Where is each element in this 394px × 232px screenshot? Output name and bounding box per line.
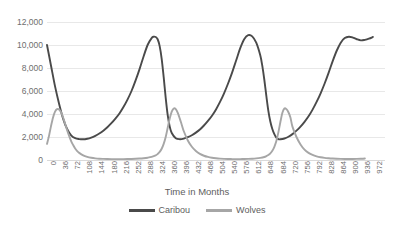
y-tick-label: 2,000 — [22, 133, 43, 142]
legend-item-wolves[interactable]: Wolves — [206, 206, 265, 215]
x-tick-label: 432 — [195, 161, 203, 174]
x-tick-label: 792 — [316, 161, 324, 174]
x-tick-label: 900 — [352, 161, 360, 174]
x-tick-label: 720 — [292, 161, 300, 174]
x-tick-label: 936 — [364, 161, 372, 174]
x-axis-title: Time in Months — [0, 186, 394, 197]
series-layer — [47, 22, 385, 160]
x-tick-label: 864 — [340, 161, 348, 174]
y-tick-label: 10,000 — [17, 41, 43, 50]
x-tick-label: 360 — [171, 161, 179, 174]
x-tick-label: 396 — [183, 161, 191, 174]
x-tick-label: 0 — [50, 161, 58, 165]
x-tick-label: 828 — [328, 161, 336, 174]
x-tick-label: 324 — [159, 161, 167, 174]
y-tick-label: 12,000 — [17, 18, 43, 27]
x-tick-label: 72 — [74, 161, 82, 169]
legend-swatch-wolves — [206, 209, 232, 211]
x-tick-label: 756 — [304, 161, 312, 174]
legend-swatch-caribou — [129, 209, 155, 211]
y-tick-label: 6,000 — [22, 87, 43, 96]
y-axis-labels: 02,0004,0006,0008,00010,00012,000 — [0, 22, 47, 160]
x-tick-label: 36 — [62, 161, 70, 169]
y-tick-label: 4,000 — [22, 110, 43, 119]
x-tick-label: 972 — [376, 161, 384, 174]
line-chart: 02,0004,0006,0008,00010,00012,000 036721… — [0, 0, 394, 232]
series-line-caribou — [47, 35, 373, 139]
legend-label-wolves: Wolves — [236, 206, 265, 215]
plot-area — [47, 22, 385, 160]
chart-legend: Caribou Wolves — [0, 206, 394, 215]
legend-item-caribou[interactable]: Caribou — [129, 206, 191, 215]
legend-label-caribou: Caribou — [159, 206, 191, 215]
x-tick-label: 576 — [243, 161, 251, 174]
x-tick-label: 684 — [280, 161, 288, 174]
x-tick-label: 252 — [135, 161, 143, 174]
x-tick-label: 216 — [123, 161, 131, 174]
x-tick-label: 144 — [98, 161, 106, 174]
x-tick-label: 540 — [231, 161, 239, 174]
series-line-wolves — [47, 108, 365, 159]
y-tick-label: 0 — [38, 156, 43, 165]
x-tick-label: 288 — [147, 161, 155, 174]
x-tick-label: 648 — [267, 161, 275, 174]
x-tick-label: 612 — [255, 161, 263, 174]
x-tick-label: 504 — [219, 161, 227, 174]
y-tick-label: 8,000 — [22, 64, 43, 73]
x-tick-label: 108 — [86, 161, 94, 174]
x-tick-label: 468 — [207, 161, 215, 174]
x-axis-labels: 0367210814418021625228832436039643246850… — [47, 161, 385, 187]
x-tick-label: 180 — [111, 161, 119, 174]
